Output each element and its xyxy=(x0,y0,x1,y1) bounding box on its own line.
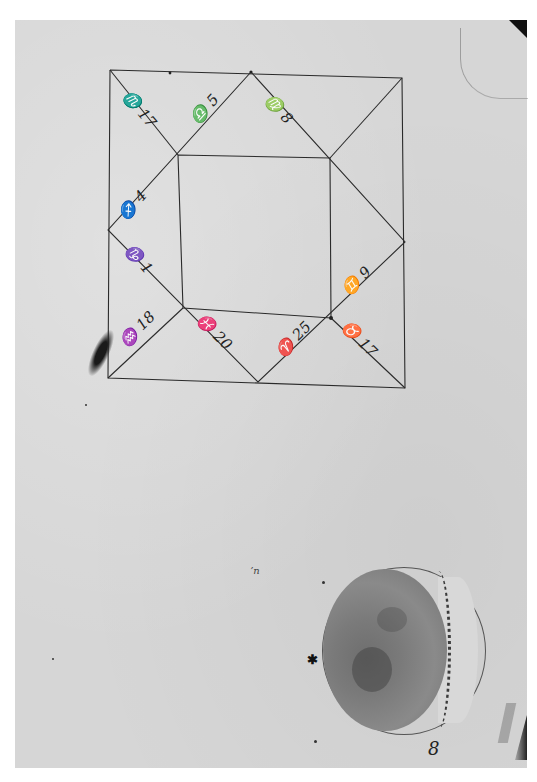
star-icon: ✱ xyxy=(307,652,318,667)
ink-dot xyxy=(314,740,317,743)
ink-dot xyxy=(52,658,54,660)
ink-dot xyxy=(85,404,87,406)
moon-drawing xyxy=(322,567,486,735)
moon-mare xyxy=(377,607,407,632)
pencil-mark: ʼn xyxy=(250,565,260,576)
plate-number: 8 xyxy=(428,738,439,759)
ink-dot xyxy=(322,581,325,584)
moon-mare xyxy=(352,647,392,692)
inner-square xyxy=(178,155,331,318)
moon-terminator xyxy=(426,571,451,729)
diag-tr xyxy=(330,78,402,158)
